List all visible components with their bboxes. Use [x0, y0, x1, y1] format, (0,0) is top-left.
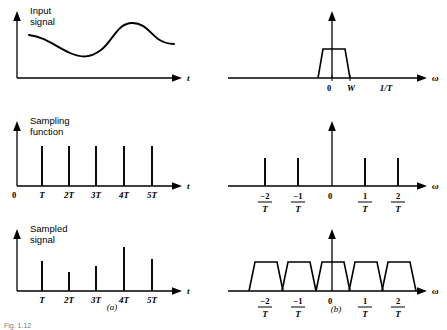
sampling-spectrum-tick-neg2-num: −2	[260, 191, 269, 201]
sampled-signal-tick-label-4T: 4T	[118, 295, 130, 305]
input-signal-title-line2: signal	[30, 16, 55, 27]
sampling-function-x-axis-label: t	[187, 181, 190, 191]
sampling-spectrum-x-axis-label: ω	[432, 181, 439, 191]
sampled-spectrum-trapezoid-neg1	[282, 262, 316, 291]
sampled-signal-y-arrow-icon	[13, 229, 21, 239]
sampled-signal-tick-label-3T: 3T	[90, 295, 102, 305]
sampled-spectrum-trapezoid-zero	[316, 262, 350, 291]
sampled-spectrum-tick-pos1: 1 T	[358, 296, 372, 319]
sampling-spectrum-tick-neg1-num: −1	[293, 191, 302, 201]
input-signal-waveform	[29, 23, 174, 57]
input-signal-y-arrow-icon	[13, 11, 21, 21]
input-spectrum-trapezoid	[318, 49, 350, 78]
sampled-signal-tick-label-T: T	[39, 295, 45, 305]
sampled-signal-tick-label-2T: 2T	[63, 295, 75, 305]
input-spectrum-tick-label-w: W	[347, 83, 356, 93]
input-spectrum-y-arrow-icon	[328, 11, 336, 21]
panel-a-caption: (a)	[107, 302, 118, 312]
sampled-signal-title-line2: signal	[30, 234, 55, 245]
sampling-function-tick-label-3T: 3T	[90, 190, 102, 200]
sampling-spectrum-tick-neg1: −1 T	[291, 191, 305, 214]
input-spectrum-x-axis-label: ω	[432, 73, 439, 83]
sampling-spectrum-tick-pos1-num: 1	[363, 191, 367, 201]
sampling-function-y-arrow-icon	[13, 121, 21, 131]
sampled-spectrum-y-arrow-icon	[328, 229, 336, 239]
sampling-spectrum-y-arrow-icon	[328, 121, 336, 131]
input-spectrum-tick-label-invT: 1/T	[380, 83, 393, 93]
sampling-spectrum-tick-pos1: 1 T	[358, 191, 372, 214]
sampling-spectrum-tick-pos2: 2 T	[391, 191, 405, 214]
sampled-signal-x-arrow-icon	[172, 287, 182, 295]
sampled-spectrum-tick-neg1: −1 T	[291, 296, 305, 319]
sampled-spectrum-tick-pos2: 2 T	[391, 296, 405, 319]
sampling-function-title-line1: Sampling	[30, 115, 70, 126]
input-spectrum-tick-label-0: 0	[327, 83, 331, 93]
sampling-function-title-line2: function	[30, 126, 63, 137]
sampled-spectrum-tick-neg2-den: T	[262, 309, 268, 319]
sampling-spectrum-tick-pos2-den: T	[395, 204, 401, 214]
sampled-spectrum-tick-neg1-den: T	[295, 309, 301, 319]
sampled-signal-title-line1: Sampled	[30, 223, 68, 234]
figure-caption: Fig. 1.12	[4, 322, 31, 330]
sampled-spectrum-tick-neg2-num: −2	[260, 296, 269, 306]
sampled-spectrum-tick-pos1-den: T	[362, 309, 368, 319]
sampled-spectrum-trapezoid-pos2	[382, 262, 416, 291]
sampling-function-x-arrow-icon	[172, 182, 182, 190]
sampled-spectrum-x-axis-label: ω	[432, 286, 439, 296]
sampled-spectrum-trapezoid-neg2	[249, 262, 283, 291]
input-signal-x-arrow-icon	[172, 74, 182, 82]
sampled-spectrum-tick-neg2: −2 T	[258, 296, 272, 319]
sampling-spectrum-x-arrow-icon	[417, 182, 427, 190]
sampled-spectrum-tick-neg1-num: −1	[293, 296, 302, 306]
sampling-function-tick-label-0: 0	[12, 190, 16, 200]
sampling-spectrum-tick-neg1-den: T	[295, 204, 301, 214]
figure-sampling-theorem: Input signal t 0 W 1/T ω	[0, 0, 447, 330]
sampling-spectrum-tick-zero: 0	[328, 191, 332, 201]
sampled-spectrum-tick-pos2-den: T	[395, 309, 401, 319]
panel-sampled-spectrum	[228, 229, 427, 295]
figure-canvas: Input signal t 0 W 1/T ω	[0, 0, 447, 330]
sampling-function-tick-label-2T: 2T	[63, 190, 75, 200]
sampling-function-tick-label-5T: 5T	[147, 190, 158, 200]
sampling-spectrum-tick-neg2-den: T	[262, 204, 268, 214]
input-signal-x-axis-label: t	[187, 73, 190, 83]
sampling-spectrum-tick-pos2-num: 2	[396, 191, 400, 201]
sampled-spectrum-tick-pos1-num: 1	[363, 296, 367, 306]
sampling-function-tick-label-T: T	[39, 190, 45, 200]
input-signal-title-line1: Input	[30, 5, 51, 16]
sampled-spectrum-trapezoid-pos1	[349, 262, 383, 291]
sampling-spectrum-tick-pos1-den: T	[362, 204, 368, 214]
panel-sampling-spectrum	[228, 121, 427, 190]
panel-input-spectrum	[228, 11, 427, 82]
panel-b-caption: (b)	[331, 304, 342, 314]
sampled-signal-x-axis-label: t	[187, 286, 190, 296]
sampled-spectrum-tick-pos2-num: 2	[396, 296, 400, 306]
sampled-spectrum-x-arrow-icon	[417, 287, 427, 295]
sampling-spectrum-tick-neg2: −2 T	[258, 191, 272, 214]
sampled-signal-tick-label-5T: 5T	[147, 295, 158, 305]
input-spectrum-x-arrow-icon	[417, 74, 427, 82]
sampling-function-tick-label-4T: 4T	[118, 190, 130, 200]
